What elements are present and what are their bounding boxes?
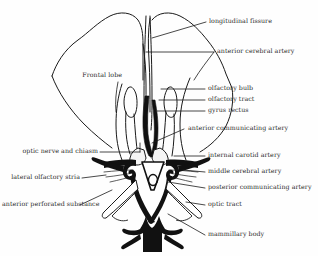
label-olfactory-bulb: olfactory bulb <box>208 84 253 91</box>
label-gyrus-rectus: gyrus rectus <box>208 106 249 113</box>
optic-tract-right <box>166 180 202 218</box>
label-optic-nerve-and-chiasm: optic nerve and chiasm <box>12 147 98 154</box>
brain-outline <box>52 13 233 160</box>
label-mammillary-body: mammillary body <box>208 230 264 237</box>
label-internal-carotid-artery: internal carotid artery <box>208 151 281 158</box>
label-anterior-communicating-artery: anterior communicating artery <box>188 124 288 131</box>
label-anterior-cerebral-artery: anterior cerebral artery <box>217 47 294 54</box>
label-longitudinal-fissure: longitudinal fissure <box>209 17 272 24</box>
leader-anterior-cerebral-artery-tail <box>194 52 214 80</box>
label-frontal-lobe: Frontal lobe <box>66 71 122 78</box>
label-olfactory-tract: olfactory tract <box>208 95 254 102</box>
optic-tract-left <box>102 180 138 218</box>
anatomical-diagram: longitudinal fissure anterior cerebral a… <box>0 0 318 256</box>
label-optic-tract: optic tract <box>208 200 242 207</box>
label-lateral-olfactory-stria: lateral olfactory stria <box>8 173 80 180</box>
label-anterior-perforated-substance: anterior perforated substance <box>2 200 78 207</box>
label-posterior-communicating-artery: posterior communicating artery <box>208 183 312 190</box>
olfactory-bulb-and-tract-left <box>124 87 138 156</box>
leader-lateral-olfactory-stria <box>82 175 106 178</box>
label-middle-cerebral-artery: middle cerebral artery <box>208 167 281 174</box>
olfactory-bulb-and-tract-right <box>162 87 177 156</box>
